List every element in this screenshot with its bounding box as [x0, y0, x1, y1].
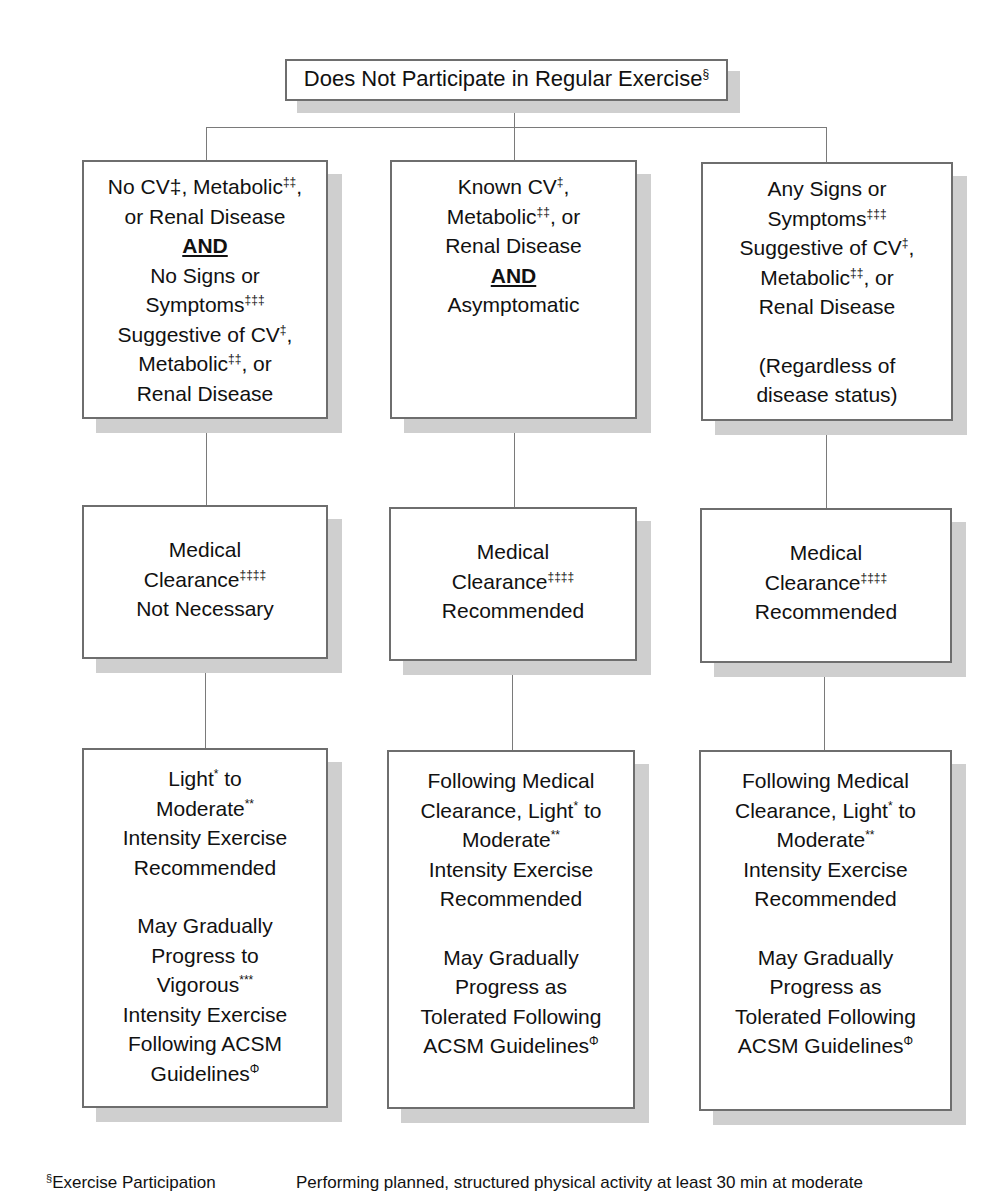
- connector-middle-1-2: [514, 418, 515, 508]
- connector-left-2-3: [205, 658, 206, 749]
- and-label: AND: [392, 261, 635, 291]
- and-label: AND: [84, 231, 326, 261]
- clearance-box-not-necessary: Medical Clearance‡‡‡‡ Not Necessary: [82, 505, 328, 659]
- condition-box-known-disease: Known CV‡, Metabolic‡‡, or Renal Disease…: [390, 160, 637, 419]
- section-footnote-mark: §: [702, 67, 709, 81]
- exercise-box-light-to-vigorous: Light* to Moderate** Intensity Exercise …: [82, 748, 328, 1108]
- connector-root-down: [514, 100, 515, 128]
- connector-right-1-2: [826, 420, 827, 509]
- connector-middle-2-3: [512, 660, 513, 751]
- root-text: Does Not Participate in Regular Exercise: [304, 66, 703, 91]
- connector-branch-right: [826, 127, 827, 163]
- footnote-term: §Exercise Participation: [46, 1173, 216, 1193]
- exercise-box-following-clearance-known: Following Medical Clearance, Light* to M…: [387, 750, 635, 1109]
- root-box: Does Not Participate in Regular Exercise…: [285, 59, 728, 101]
- connector-left-1-2: [206, 418, 207, 506]
- footnote-definition: Performing planned, structured physical …: [296, 1173, 863, 1193]
- connector-branch-horizontal: [206, 127, 827, 128]
- condition-box-signs-symptoms: Any Signs or Symptoms‡‡‡ Suggestive of C…: [701, 162, 953, 421]
- condition-box-no-disease: No CV‡, Metabolic‡‡, or Renal Disease AN…: [82, 160, 328, 419]
- connector-right-2-3: [824, 662, 825, 751]
- connector-branch-middle: [514, 127, 515, 161]
- clearance-box-recommended-symptoms: Medical Clearance‡‡‡‡ Recommended: [700, 508, 952, 663]
- exercise-box-following-clearance-symptoms: Following Medical Clearance, Light* to M…: [699, 750, 952, 1111]
- connector-branch-left: [206, 127, 207, 161]
- clearance-box-recommended-known: Medical Clearance‡‡‡‡ Recommended: [389, 507, 637, 661]
